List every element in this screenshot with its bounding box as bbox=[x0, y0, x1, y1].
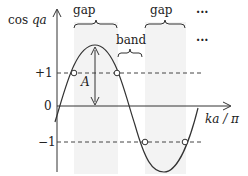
x-axis-label: ka / π bbox=[205, 113, 239, 125]
tick-plus-one: +1 bbox=[35, 67, 53, 79]
crossing-point bbox=[182, 139, 188, 145]
gap-label-1: gap bbox=[73, 4, 96, 16]
y-axis-label: cos qa bbox=[8, 14, 47, 26]
gap-label-2: gap bbox=[150, 4, 173, 16]
crossing-point bbox=[142, 139, 148, 145]
band-label: band bbox=[116, 34, 146, 46]
crossing-point bbox=[114, 70, 120, 76]
tick-zero: 0 bbox=[44, 100, 52, 112]
band-gap-diagram: cos qa gap gap band ··· ··· +1 0 −1 A ka… bbox=[0, 0, 248, 176]
crossing-point bbox=[71, 70, 77, 76]
ellipsis-1: ··· bbox=[196, 6, 209, 18]
ellipsis-2: ··· bbox=[196, 34, 209, 46]
amplitude-label: A bbox=[81, 76, 90, 88]
gap-region-2 bbox=[145, 22, 186, 174]
tick-minus-one: −1 bbox=[38, 136, 56, 148]
band-brace bbox=[118, 49, 142, 57]
